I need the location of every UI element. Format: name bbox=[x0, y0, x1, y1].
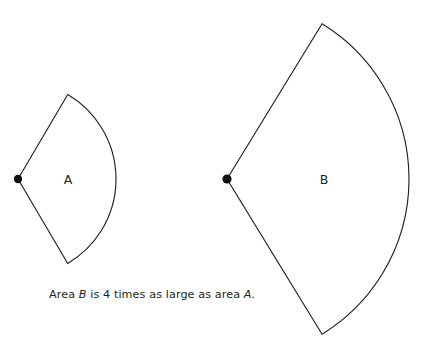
caption-part-2: is 4 times as large as area bbox=[87, 288, 244, 301]
sector-a-label: A bbox=[64, 174, 73, 187]
caption-part-3: . bbox=[252, 288, 256, 301]
sector-b-vertex-dot bbox=[222, 174, 231, 183]
sector-a-vertex-dot bbox=[14, 175, 22, 183]
caption-emphasis-a: A bbox=[244, 288, 252, 301]
caption-part-1: Area bbox=[49, 288, 79, 301]
sector-b-label: B bbox=[320, 174, 329, 187]
figure-page: is a sector of a circle A B Area B is 4 … bbox=[0, 0, 429, 362]
figure-caption: Area B is 4 times as large as area A. bbox=[49, 288, 255, 301]
caption-emphasis-b: B bbox=[79, 288, 87, 301]
